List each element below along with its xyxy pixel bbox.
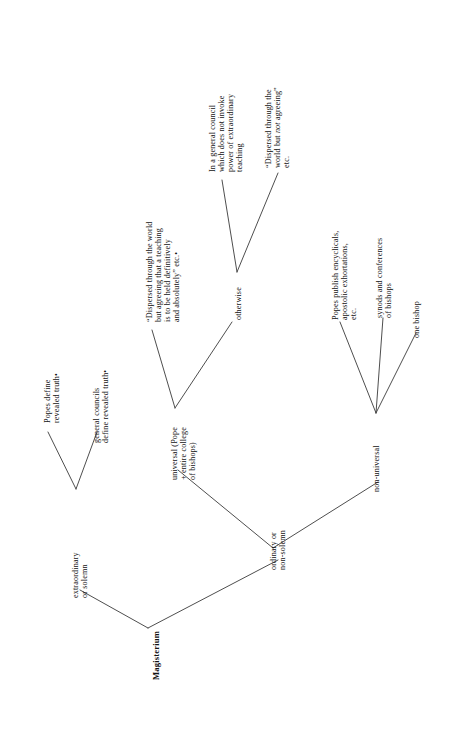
node-ordinary-line-0: ordinary or xyxy=(269,530,278,570)
edge-ordinary-nonuniversal xyxy=(273,482,378,548)
node-root-line-0: Magisterium xyxy=(152,631,162,680)
node-general-councils-line-0: general councils xyxy=(92,370,101,443)
node-popes-define-line-1: revealed truth• xyxy=(52,373,61,423)
edge-extraordinary-popes xyxy=(48,432,76,489)
node-universal-line-1: + entire college xyxy=(179,427,188,480)
node-one-bishop: one bishop xyxy=(412,301,421,338)
edge-nonuniversal-one-bishop xyxy=(376,333,416,413)
node-ordinary: ordinary or non-solemn xyxy=(269,530,287,570)
node-universal: universal (Pope + entire college of bish… xyxy=(170,427,197,480)
dispersed-not-agreeing-seg-1a: world but xyxy=(273,133,282,168)
dispersed-not-agreeing-seg-1c: agreeing” xyxy=(273,87,282,122)
node-dispersed-agreeing-line-1: but agreeing that a teaching xyxy=(154,221,163,322)
node-general-council-not-invoke: In a general council which does not invo… xyxy=(208,94,244,172)
node-dispersed-agreeing-line-0: “Dispersed through the world xyxy=(145,221,154,322)
node-popes-define: Popes define revealed truth• xyxy=(43,373,61,423)
node-general-council-not-invoke-line-1: which does not invoke xyxy=(217,94,226,172)
node-otherwise: otherwise xyxy=(234,287,243,320)
node-extraordinary-line-1: or solemn xyxy=(80,552,89,598)
edge-otherwise-dispersed-not xyxy=(237,173,278,272)
dispersed-not-agreeing-seg-0: “Dispersed through the xyxy=(264,89,273,168)
node-extraordinary-line-0: extraordinary xyxy=(71,552,80,598)
edge-nonuniversal-popes-publish xyxy=(340,322,376,413)
node-popes-publish-line-0: Popes publish encyclicals, xyxy=(331,231,340,320)
node-dispersed-not-agreeing-line-0: “Dispersed through the xyxy=(264,87,273,168)
node-synods-line-0: synods and conferences xyxy=(375,238,384,318)
node-general-councils: general councils define revealed truth• xyxy=(92,370,110,443)
node-universal-line-2: of bishops) xyxy=(188,427,197,480)
edge-universal-dispersed xyxy=(152,330,175,408)
node-dispersed-not-agreeing: “Dispersed through the world but not agr… xyxy=(264,87,291,168)
node-dispersed-agreeing-line-2: is to be held definitively xyxy=(163,221,172,322)
node-general-council-not-invoke-line-3: teaching xyxy=(235,94,244,172)
node-general-council-not-invoke-line-2: power of extraordinary xyxy=(226,94,235,172)
edge-ordinary-universal xyxy=(178,470,273,548)
node-universal-line-0: universal (Pope xyxy=(170,427,179,480)
node-popes-publish-line-2: etc. xyxy=(349,231,358,320)
node-general-councils-line-1: define revealed truth• xyxy=(101,370,110,443)
diagram-canvas: Magisterium extraordinary or solemn Pope… xyxy=(0,0,449,748)
node-synods-line-1: of bishops xyxy=(384,238,393,318)
dispersed-not-agreeing-seg-2: etc. xyxy=(282,156,291,168)
node-otherwise-line-0: otherwise xyxy=(234,287,243,320)
node-non-universal: non-universal xyxy=(372,445,381,492)
edge-root-extraordinary xyxy=(80,590,148,628)
node-extraordinary: extraordinary or solemn xyxy=(71,552,89,598)
node-root: Magisterium xyxy=(152,631,162,680)
node-dispersed-agreeing: “Dispersed through the world but agreein… xyxy=(145,221,181,322)
dispersed-not-agreeing-seg-1b: not xyxy=(273,122,282,133)
node-dispersed-not-agreeing-line-1: world but not agreeing” xyxy=(273,87,282,168)
edge-otherwise-council xyxy=(222,180,237,272)
node-synods: synods and conferences of bishops xyxy=(375,238,393,318)
node-ordinary-line-1: non-solemn xyxy=(278,530,287,570)
node-dispersed-not-agreeing-line-2: etc. xyxy=(282,87,291,168)
node-popes-publish-line-1: apostolic exhortations, xyxy=(340,231,349,320)
node-one-bishop-line-0: one bishop xyxy=(412,301,421,338)
edge-nonuniversal-synods xyxy=(376,318,383,413)
node-non-universal-line-0: non-universal xyxy=(372,445,381,492)
edge-universal-otherwise xyxy=(175,322,232,408)
node-popes-define-line-0: Popes define xyxy=(43,373,52,423)
node-popes-publish: Popes publish encyclicals, apostolic exh… xyxy=(331,231,358,320)
node-general-council-not-invoke-line-0: In a general council xyxy=(208,94,217,172)
node-dispersed-agreeing-line-3: and absolutely” etc.• xyxy=(172,221,181,322)
edge-root-ordinary xyxy=(148,560,278,628)
